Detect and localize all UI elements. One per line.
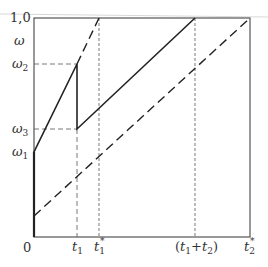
y-label-one: 1,0 (10, 10, 31, 25)
dashed-extension-t1star (77, 18, 99, 64)
y-label-omega3: ω3 (12, 121, 29, 138)
dashed-diagonal-t2star (34, 18, 250, 216)
omega-time-diagram: 1,0 ω ω2 ω3 ω1 0 t1 t1* (t1+t2) t2* (0, 0, 268, 267)
solid-omega-path (34, 18, 195, 237)
y-label-omega2: ω2 (12, 56, 28, 73)
x-label-t2star: t2* (244, 236, 255, 256)
x-label-t1-plus-t2: (t1+t2) (175, 239, 218, 256)
page-edge-line (0, 14, 268, 17)
x-label-t1: t1 (72, 239, 83, 256)
x-label-origin: 0 (23, 240, 31, 255)
y-label-omega1: ω1 (12, 144, 28, 161)
x-label-t1star: t1* (94, 236, 105, 256)
guide-lines (34, 18, 195, 237)
plot-frame (34, 18, 250, 237)
y-label-omega: ω (14, 33, 25, 48)
